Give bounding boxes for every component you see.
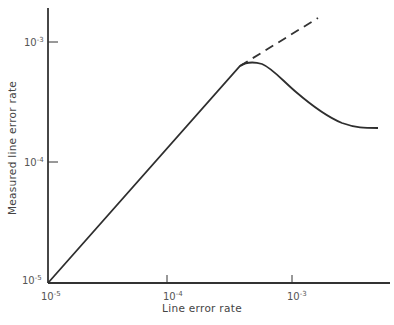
x-tick-label-1e-5: 10-5 xyxy=(41,290,61,302)
measured-curve xyxy=(48,63,378,283)
y-tick-label-1e-5: 10-5 xyxy=(22,274,42,286)
chart: 10-3 10-4 10-5 10-5 10-4 10-3 Line error… xyxy=(0,0,394,325)
y-tick-label-1e-4: 10-4 xyxy=(24,156,44,168)
y-axis-title: Measured line error rate xyxy=(6,81,18,215)
figure-caption-cropped xyxy=(12,315,392,325)
x-tick-label-1e-4: 10-4 xyxy=(163,290,183,302)
x-axis-title: Line error rate xyxy=(162,302,242,314)
y-tick-label-1e-3: 10-3 xyxy=(24,36,44,48)
x-tick-label-1e-3: 10-3 xyxy=(287,290,307,302)
ideal-dashed-line xyxy=(240,18,318,66)
